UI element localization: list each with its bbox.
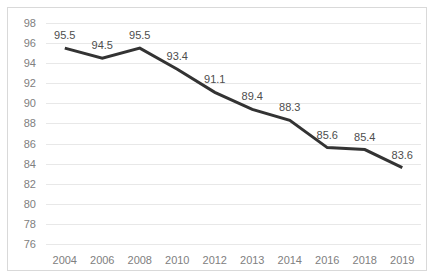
data-label-2018: 85.4 <box>354 132 375 143</box>
data-label-2013: 89.4 <box>242 91 263 102</box>
data-label-2014: 88.3 <box>279 102 300 113</box>
x-tick-2016: 2016 <box>315 255 339 266</box>
data-label-2008: 95.5 <box>129 30 150 41</box>
chart-container: 989694929088868482807876 95.594.595.593.… <box>7 7 427 271</box>
x-tick-2013: 2013 <box>240 255 264 266</box>
series-polyline <box>65 48 403 168</box>
data-label-2010: 93.4 <box>167 51 188 62</box>
x-tick-2018: 2018 <box>353 255 377 266</box>
data-label-2016: 85.6 <box>317 130 338 141</box>
x-tick-2010: 2010 <box>165 255 189 266</box>
data-label-2004: 95.5 <box>54 30 75 41</box>
data-label-2019: 83.6 <box>392 150 413 161</box>
x-tick-2006: 2006 <box>90 255 114 266</box>
x-tick-2012: 2012 <box>203 255 227 266</box>
x-tick-2014: 2014 <box>278 255 302 266</box>
data-label-2006: 94.5 <box>92 40 113 51</box>
plot-area: 989694929088868482807876 95.594.595.593.… <box>8 8 428 272</box>
x-tick-2008: 2008 <box>128 255 152 266</box>
x-tick-2004: 2004 <box>53 255 77 266</box>
data-label-2012: 91.1 <box>204 74 225 85</box>
x-tick-2019: 2019 <box>390 255 414 266</box>
